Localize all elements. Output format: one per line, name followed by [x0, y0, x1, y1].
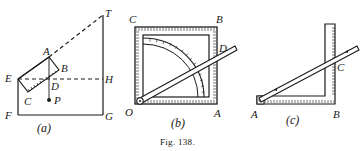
label-A: A [213, 107, 221, 119]
label-A: A [250, 108, 258, 120]
label-A: A [42, 45, 50, 57]
scale-bottom [136, 100, 216, 103]
panel-a-labels: T A B E H D C P F G (a) [4, 7, 114, 135]
figure-138: T A B E H D C P F G (a) [0, 0, 363, 151]
label-C: C [129, 13, 137, 25]
label-C: C [24, 95, 32, 107]
sublabel-b: (b) [171, 116, 185, 130]
label-B: B [216, 13, 223, 25]
label-G: G [105, 110, 113, 122]
plumb-bob [47, 98, 51, 102]
sublabel-c: (c) [286, 113, 299, 127]
label-E: E [4, 72, 12, 84]
sublabel-a: (a) [37, 121, 51, 135]
scale-right [213, 32, 216, 98]
label-C: C [337, 61, 345, 73]
label-H: H [104, 73, 114, 85]
sighting-rod [259, 46, 359, 102]
label-D: D [218, 42, 227, 54]
scale-left [136, 32, 139, 98]
label-O: O [125, 106, 133, 118]
label-B: B [333, 108, 340, 120]
panel-b [135, 27, 237, 104]
label-P: P [53, 94, 61, 106]
scale-horizontal [262, 100, 334, 104]
pivot-center [139, 100, 141, 102]
dashed-line-at [49, 15, 103, 57]
sighting-rod [138, 46, 237, 104]
scale-top [136, 28, 216, 31]
label-D: D [50, 80, 59, 92]
figure-caption: Fig. 138. [160, 137, 195, 147]
label-T: T [105, 7, 112, 19]
label-F: F [4, 109, 12, 121]
label-B: B [61, 62, 68, 74]
